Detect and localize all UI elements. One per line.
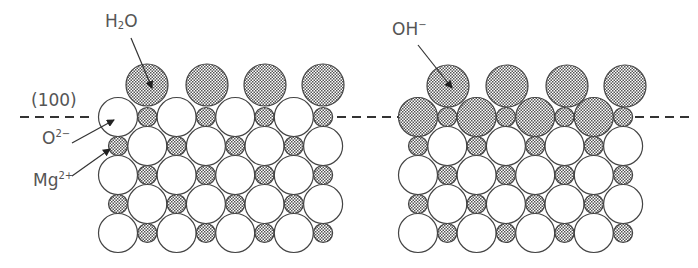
magnesium-ion xyxy=(496,108,515,127)
hydroxide-ion xyxy=(486,65,528,107)
magnesium-ion xyxy=(138,108,157,127)
magnesium-ion xyxy=(438,108,457,127)
surface-hydroxide-ion xyxy=(516,98,555,137)
magnesium-ion xyxy=(167,137,186,156)
oxide-ion xyxy=(516,156,555,195)
magnesium-ion-label: Mg2+ xyxy=(33,171,73,189)
magnesium-ion xyxy=(314,224,333,243)
magnesium-ion xyxy=(526,137,545,156)
oxide-ion xyxy=(604,185,643,224)
oxide-ion xyxy=(186,127,225,166)
magnesium-ion xyxy=(409,137,428,156)
magnesium-ion xyxy=(526,195,545,214)
magnesium-ion xyxy=(314,166,333,185)
magnesium-ion xyxy=(284,137,303,156)
oxide-ion xyxy=(457,156,496,195)
oxide-ion xyxy=(304,185,343,224)
oxide-ion xyxy=(99,156,138,195)
surface-hydroxide-ion xyxy=(574,98,613,137)
oxide-ion xyxy=(128,127,167,166)
magnesium-ion xyxy=(496,224,515,243)
oxide-ion xyxy=(99,98,138,137)
hydroxide-ion xyxy=(427,65,469,107)
magnesium-ion xyxy=(467,137,486,156)
water-label: H2O xyxy=(105,13,138,31)
magnesium-ion xyxy=(196,224,215,243)
magnesium-ion xyxy=(496,166,515,185)
water-molecule xyxy=(302,64,344,106)
magnesium-ion xyxy=(555,108,574,127)
plane-100-label: (100) xyxy=(31,92,77,109)
magnesium-ion xyxy=(196,166,215,185)
oxide-ion-label: O2− xyxy=(42,129,70,147)
oxide-ion xyxy=(428,127,467,166)
oxide-ion xyxy=(274,214,313,253)
oxide-ion xyxy=(428,185,467,224)
oxide-ion xyxy=(457,214,496,253)
oxide-ion xyxy=(574,214,613,253)
water-molecule xyxy=(244,64,286,106)
magnesium-ion xyxy=(584,195,603,214)
oxide-ion xyxy=(604,127,643,166)
oxide-ion xyxy=(399,156,438,195)
magnesium-ion xyxy=(138,224,157,243)
magnesium-ion xyxy=(255,166,274,185)
oxide-ion xyxy=(157,214,196,253)
hydroxide-label: OH− xyxy=(392,20,427,38)
magnesium-ion xyxy=(167,195,186,214)
oxide-ion xyxy=(216,214,255,253)
magnesium-ion xyxy=(555,224,574,243)
magnesium-ion xyxy=(284,195,303,214)
water-molecule xyxy=(186,64,228,106)
magnesium-ion xyxy=(438,166,457,185)
surface-hydroxide-ion xyxy=(399,98,438,137)
oxide-ion xyxy=(245,185,284,224)
oxide-ion xyxy=(545,185,584,224)
magnesium-ion xyxy=(255,224,274,243)
oxide-ion xyxy=(245,127,284,166)
magnesium-ion xyxy=(314,108,333,127)
oxide-ion xyxy=(516,214,555,253)
oxide-ion xyxy=(574,156,613,195)
oxide-ion xyxy=(216,156,255,195)
oxide-ion xyxy=(304,127,343,166)
magnesium-ion xyxy=(409,195,428,214)
magnesium-ion xyxy=(614,108,633,127)
magnesium-ion xyxy=(109,195,128,214)
magnesium-ion xyxy=(614,224,633,243)
oxide-ion xyxy=(157,156,196,195)
surface-hydroxide-ion xyxy=(457,98,496,137)
magnesium-ion xyxy=(196,108,215,127)
magnesium-ion xyxy=(109,137,128,156)
magnesium-ion xyxy=(614,166,633,185)
oxide-ion xyxy=(486,127,525,166)
hydroxide-ion xyxy=(546,65,588,107)
oxide-ion xyxy=(99,214,138,253)
oxide-ion xyxy=(274,98,313,137)
oxide-ion xyxy=(128,185,167,224)
magnesium-ion xyxy=(226,195,245,214)
lattice-canvas xyxy=(0,0,698,268)
water-molecule xyxy=(126,64,168,106)
oxide-ion xyxy=(399,214,438,253)
magnesium-ion xyxy=(226,137,245,156)
magnesium-ion xyxy=(584,137,603,156)
oxide-ion xyxy=(186,185,225,224)
oxide-ion xyxy=(274,156,313,195)
mgo-surface-diagram: H2O OH− (100) O2− Mg2+ xyxy=(0,0,698,268)
magnesium-ion xyxy=(467,195,486,214)
magnesium-ion xyxy=(555,166,574,185)
hydroxide-ion xyxy=(604,65,646,107)
oxide-ion xyxy=(157,98,196,137)
oxide-ion xyxy=(216,98,255,137)
mgo-lattice-with-hydroxide xyxy=(399,65,647,253)
oxide-ion xyxy=(545,127,584,166)
mgo-lattice-with-water xyxy=(99,64,345,253)
magnesium-ion xyxy=(438,224,457,243)
magnesium-ion xyxy=(138,166,157,185)
magnesium-ion xyxy=(255,108,274,127)
oxide-ion xyxy=(486,185,525,224)
